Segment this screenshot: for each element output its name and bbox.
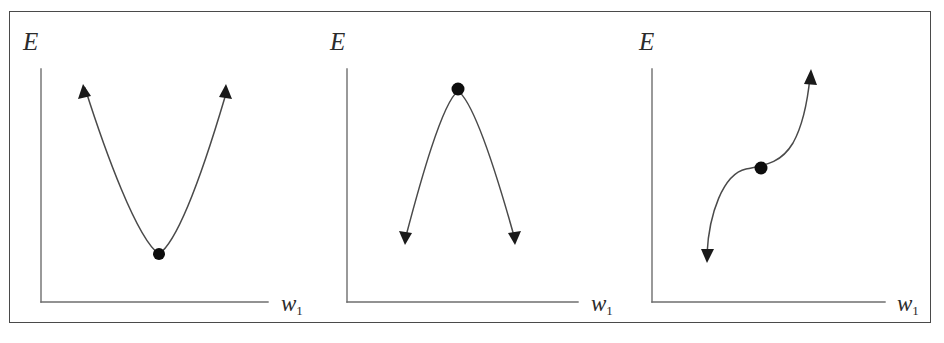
energy-curve-maximum [406,91,514,236]
arrow-up-left-icon [78,84,91,99]
x-axis-label-base: w [591,291,606,316]
minimum-point [153,248,165,260]
panel-minimum-plot [9,11,320,323]
x-axis-label: w1 [281,292,303,315]
arrow-up-right-icon [219,84,232,99]
x-axis-label-subscript: 1 [606,303,613,318]
x-axis-label: w1 [897,292,919,315]
panel-maximum: E w1 [320,11,631,323]
panel-minimum: E w1 [9,11,320,323]
y-axis-label: E [639,29,654,54]
y-axis-label: E [330,29,345,54]
energy-curve-minimum [85,88,225,254]
x-axis-label-subscript: 1 [296,303,303,318]
arrow-up-icon [804,69,817,85]
maximum-point [452,83,465,96]
figure-root: E w1 E w1 E w1 [0,0,944,343]
panel-saddle-plot [631,11,931,323]
x-axis-label-subscript: 1 [912,303,919,318]
x-axis-label: w1 [591,292,613,315]
panel-saddle: E w1 [631,11,931,323]
x-axis-label-base: w [897,291,912,316]
panel-maximum-plot [320,11,631,323]
arrow-down-left-icon [399,231,412,245]
arrow-down-right-icon [508,231,521,245]
arrow-down-icon [701,249,714,263]
x-axis-label-base: w [281,291,296,316]
saddle-point [755,162,768,175]
y-axis-label: E [23,29,38,54]
